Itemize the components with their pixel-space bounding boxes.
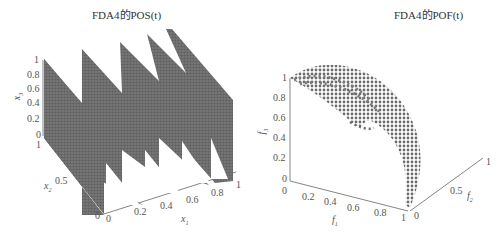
- z-tick: 1: [34, 55, 39, 65]
- x1-axis-label: x1: [181, 213, 188, 226]
- x2-axis-label: x2: [44, 180, 51, 193]
- f3-tick: 0.8: [273, 93, 286, 103]
- x-tick: 0.8: [211, 188, 224, 198]
- f2-tick: 1: [486, 157, 491, 167]
- y-tick: 1: [36, 140, 41, 150]
- pos-sheets: [44, 29, 233, 215]
- y-tick: 0: [95, 211, 100, 221]
- f3-tick: 0.4: [273, 133, 286, 143]
- x-tick: 0: [106, 214, 111, 224]
- f1-tick: 1: [401, 213, 406, 223]
- z-tick: 0.8: [27, 70, 40, 80]
- f2-tick: 0: [414, 211, 419, 221]
- pof-plot-area: [250, 0, 499, 237]
- f1-axis-label: f1: [332, 214, 338, 227]
- f1-tick: 0.2: [302, 192, 315, 202]
- pos-chart-panel: FDA4的POS(t): [0, 0, 250, 237]
- x-tick: 0.2: [134, 207, 147, 217]
- pof-chart-panel: FDA4的POF(t) 1 0.8 0.6 0.4 0.2 0 f3 0 0.2…: [250, 0, 499, 237]
- f3-axis-label: f3: [256, 129, 269, 135]
- f3-tick: 1: [282, 73, 287, 83]
- f2-axis-line: [410, 158, 483, 211]
- f3-tick: 0: [282, 174, 287, 184]
- f1-tick: 0.8: [374, 208, 387, 218]
- x-tick: 0.4: [160, 201, 173, 211]
- x-tick: 1: [236, 180, 241, 190]
- f1-tick: 0.4: [324, 197, 337, 207]
- z-tick: 0.4: [27, 98, 40, 108]
- z-tick: 0.2: [27, 114, 40, 124]
- f1-tick: 0.6: [347, 203, 360, 213]
- f2-axis-label: f2: [467, 190, 473, 203]
- pof-surface: [290, 65, 421, 208]
- x3-axis-label: x3: [11, 93, 24, 100]
- f2-tick: 0.5: [450, 186, 463, 196]
- f3-tick: 0.6: [273, 113, 286, 123]
- f3-tick: 0.2: [273, 153, 286, 163]
- f1-tick: 0: [282, 186, 287, 196]
- z-tick: 0.6: [27, 84, 40, 94]
- y-tick: 0.5: [55, 176, 68, 186]
- x-tick: 0.6: [186, 195, 199, 205]
